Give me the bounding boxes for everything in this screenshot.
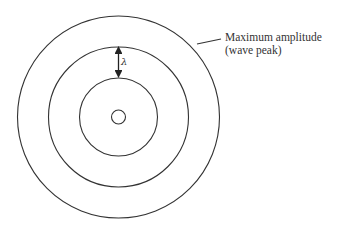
source-circle [112, 110, 126, 124]
annotation-line-1: Maximum amplitude [225, 31, 322, 44]
wavelength-label: λ [120, 56, 127, 67]
wavefront-ring-1 [80, 78, 158, 156]
annotation-line-2: (wave peak) [225, 44, 282, 57]
wavefront-diagram: λ Maximum amplitude (wave peak) [0, 0, 340, 228]
annotation-leader-line [197, 39, 221, 44]
wavefront-ring-3 [18, 16, 220, 218]
